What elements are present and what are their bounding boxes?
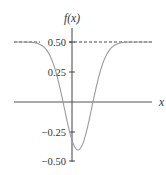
chart: 0.50 0.25 −0.25 −0.50 f(x) x <box>0 0 166 175</box>
function-curve <box>14 42 152 150</box>
y-tick-label: 0.50 <box>48 37 66 48</box>
x-axis-label: x <box>158 96 165 108</box>
y-axis-label: f(x) <box>64 12 80 25</box>
y-tick-label: −0.25 <box>42 127 66 138</box>
y-tick-label: −0.50 <box>42 156 66 167</box>
